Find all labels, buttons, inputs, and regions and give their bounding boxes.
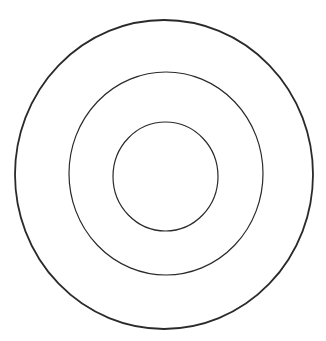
inner-ring xyxy=(113,122,218,231)
outer-ring xyxy=(15,20,313,329)
concentric-circles-diagram xyxy=(0,0,326,341)
middle-ring xyxy=(69,72,263,275)
